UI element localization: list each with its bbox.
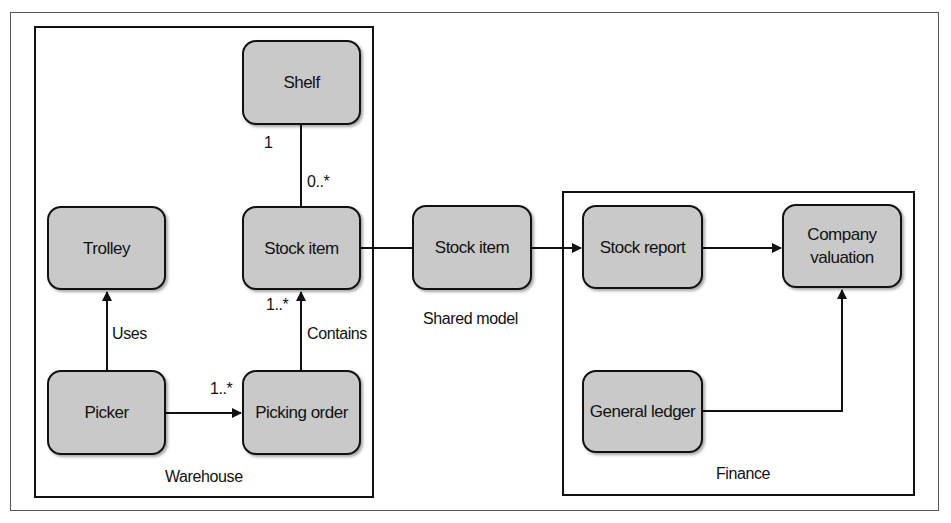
node-label: Shelf (283, 71, 319, 94)
node-shelf[interactable]: Shelf (242, 40, 361, 125)
multiplicity-stock: 0..* (307, 173, 329, 191)
node-label: Stock report (600, 236, 686, 259)
node-label: Stock item (435, 236, 509, 259)
node-picking-order[interactable]: Picking order (242, 370, 361, 455)
label-contains: Contains (307, 325, 367, 343)
label-uses: Uses (112, 325, 147, 343)
node-label: General ledger (590, 400, 695, 423)
edge-ledger-valuation (703, 290, 842, 411)
node-stock-report[interactable]: Stock report (582, 205, 703, 289)
node-label-line1: Company (807, 223, 876, 246)
node-label: Trolley (83, 237, 130, 260)
node-picker[interactable]: Picker (47, 370, 166, 455)
finance-label: Finance (716, 465, 770, 483)
node-trolley[interactable]: Trolley (47, 206, 166, 290)
node-label: Picker (84, 401, 128, 424)
node-company-valuation[interactable]: Company valuation (782, 204, 902, 288)
multiplicity-shelf: 1 (264, 134, 273, 152)
node-stock-item-shared[interactable]: Stock item (412, 205, 532, 290)
node-label: Picking order (255, 401, 348, 424)
multiplicity-picking-order: 1..* (210, 380, 232, 398)
node-general-ledger[interactable]: General ledger (582, 370, 703, 453)
multiplicity-contains: 1..* (266, 296, 288, 314)
warehouse-label: Warehouse (165, 468, 243, 486)
node-label-line2: valuation (810, 246, 874, 269)
node-label: Stock item (264, 237, 338, 260)
shared-model-label: Shared model (423, 310, 518, 328)
node-stock-item-warehouse[interactable]: Stock item (242, 206, 361, 290)
